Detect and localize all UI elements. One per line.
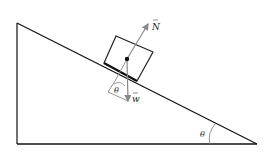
- center-of-mass-dot: [125, 57, 129, 61]
- base-angle-label: θ: [200, 130, 205, 139]
- incline-diagram: N w θ θ: [0, 0, 273, 159]
- angle-arc-base: [209, 124, 215, 144]
- incline-triangle: [17, 23, 257, 144]
- block-angle-label: θ: [114, 86, 119, 95]
- weight-label: w: [132, 94, 140, 104]
- normal-force-label: N: [151, 22, 161, 32]
